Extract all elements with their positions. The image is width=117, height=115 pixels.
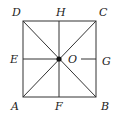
label-a: A (10, 100, 19, 113)
label-f: F (54, 100, 63, 113)
geometry-diagram: D H C E O G A F B (0, 0, 117, 115)
center-point-o (56, 56, 61, 61)
label-e: E (9, 53, 18, 66)
label-o: O (68, 53, 77, 66)
label-g: G (102, 55, 111, 68)
label-h: H (55, 6, 66, 19)
label-c: C (99, 6, 108, 19)
label-d: D (11, 6, 21, 19)
label-b: B (100, 100, 109, 113)
